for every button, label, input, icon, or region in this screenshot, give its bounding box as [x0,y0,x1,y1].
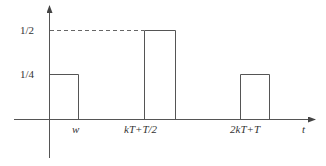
pulse-1 [50,75,79,120]
pulse-2 [145,31,176,120]
pulse-3-label: 2kT+T [230,123,261,135]
pulse-2-label: kT+T/2 [124,123,158,135]
y-tick-label-quarter: 1/4 [20,68,35,80]
pulse-3 [241,75,270,120]
x-axis-label: t [302,123,306,135]
y-tick-label-half: 1/2 [20,24,34,36]
pulse-diagram: 1/2 1/4 w kT+T/2 2kT+T t [0,0,326,166]
pulse-1-label: w [72,123,80,135]
